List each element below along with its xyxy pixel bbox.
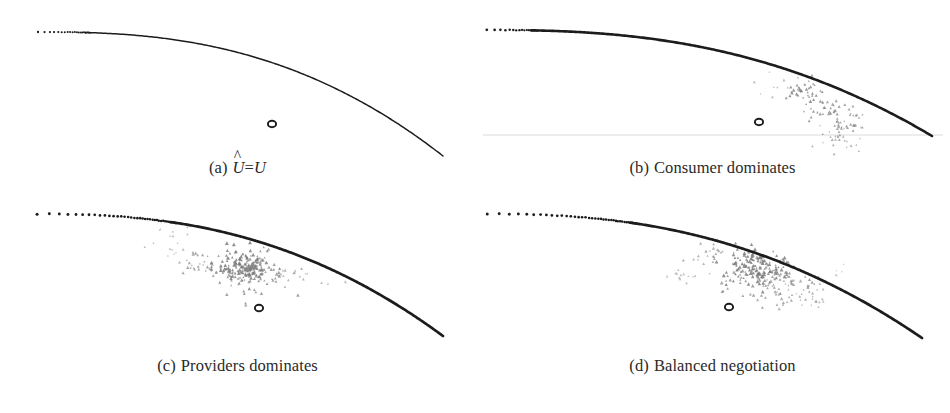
frontier-dot [485, 28, 488, 31]
outcome-point [732, 253, 735, 256]
outcome-point [205, 269, 207, 271]
frontier-dot [581, 216, 584, 219]
outcome-point [850, 144, 853, 147]
outcome-point [742, 294, 745, 297]
frontier-dot [584, 216, 587, 219]
caption-a-u2: U [254, 158, 266, 177]
frontier-dot [499, 29, 502, 32]
outcome-point [253, 288, 256, 291]
outcome-point [732, 279, 735, 282]
frontier-dot [545, 214, 548, 217]
frontier-dot [61, 31, 63, 33]
outcome-point [192, 251, 195, 254]
outcome-point [259, 250, 262, 253]
outcome-point [225, 241, 229, 245]
outcome-point [826, 101, 829, 104]
outcome-point [832, 143, 835, 146]
caption-b-label: (b) [629, 158, 649, 177]
outcome-point [244, 302, 247, 305]
outcome-point [697, 259, 699, 261]
outcome-point [779, 278, 782, 281]
outcome-point [819, 90, 821, 92]
outcome-point [226, 260, 229, 262]
frontier-dot [37, 31, 39, 33]
outcome-point [768, 71, 770, 73]
outcome-point [242, 290, 245, 293]
outcome-point [836, 119, 839, 122]
outcome-point [810, 116, 813, 119]
outcome-point [242, 276, 244, 278]
frontier-dot [123, 215, 126, 218]
outcome-point [169, 248, 171, 250]
outcome-point [726, 287, 729, 289]
outcome-point [818, 301, 821, 303]
outcome-point [813, 283, 815, 285]
outcome-point [699, 242, 702, 245]
outcome-point [810, 107, 812, 109]
outcome-point [861, 113, 863, 115]
frontier-dot [629, 222, 631, 224]
outcome-point [849, 123, 852, 126]
outcome-point [172, 230, 174, 232]
outcome-point [224, 264, 228, 267]
outcome-point [692, 258, 695, 260]
panel-c: (c)Providers dominates [0, 196, 475, 402]
outcome-point [733, 251, 735, 253]
outcome-point [836, 270, 838, 272]
outcome-point [784, 283, 786, 285]
outcome-point [167, 255, 169, 257]
outcome-point [852, 129, 855, 132]
outcome-point [265, 261, 269, 265]
outcome-point [144, 246, 146, 248]
outcome-point [697, 255, 700, 258]
frontier-dot [486, 212, 489, 215]
outcome-point [264, 257, 266, 259]
frontier-dot [78, 32, 80, 34]
outcome-point [743, 277, 745, 279]
outcome-point [835, 273, 838, 276]
outcome-point [194, 252, 197, 255]
outcome-point [816, 111, 819, 114]
outcome-point [833, 124, 836, 127]
outcome-point [753, 247, 757, 251]
frontier-dot [512, 29, 514, 31]
frontier-dot [602, 218, 605, 221]
outcome-point [773, 284, 775, 286]
outcome-point [218, 281, 221, 284]
open-circle-icon [255, 305, 263, 312]
outcome-point [248, 287, 251, 290]
outcome-point [284, 286, 286, 288]
outcome-point [812, 83, 814, 85]
frontier-dot [591, 217, 594, 220]
outcome-point [739, 278, 741, 280]
outcome-point [852, 105, 855, 108]
outcome-point [782, 301, 785, 304]
frontier-dot [508, 29, 510, 31]
outcome-point [836, 113, 839, 116]
outcome-point [741, 262, 744, 265]
outcome-point [687, 275, 689, 277]
outcome-point [320, 282, 322, 284]
outcome-point [737, 257, 739, 259]
outcome-point [272, 268, 275, 271]
outcome-point [792, 88, 795, 91]
outcome-point [776, 303, 779, 306]
outcome-point [808, 278, 811, 281]
outcome-point [841, 270, 843, 272]
outcome-point [842, 135, 845, 138]
outcome-point [755, 255, 758, 258]
outcome-point [177, 242, 179, 244]
frontier-dot [498, 212, 501, 215]
outcome-point [707, 255, 709, 257]
frontier-dot [49, 31, 51, 33]
caption-d-text: Balanced negotiation [654, 356, 796, 375]
outcome-point [803, 289, 805, 291]
outcome-point [225, 293, 229, 296]
plot-area-c [0, 196, 475, 366]
outcome-point [732, 270, 736, 273]
outcome-point [811, 95, 813, 97]
outcome-point [243, 279, 245, 281]
frontier-dot [518, 29, 520, 31]
outcome-point [259, 257, 262, 260]
outcome-point [169, 235, 171, 237]
